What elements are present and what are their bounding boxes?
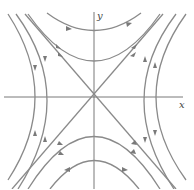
- arrow-icon: [33, 65, 37, 71]
- arrow-icon: [56, 44, 61, 49]
- arrow-icon: [143, 56, 147, 62]
- arrow-icon: [43, 136, 47, 142]
- arrow-icon: [153, 130, 157, 136]
- arrow-icon: [57, 141, 63, 145]
- phase-portrait-diagram: x y: [0, 0, 194, 189]
- arrow-icon: [33, 130, 37, 136]
- arrow-icon: [153, 62, 157, 68]
- trajectory-left-inner: [16, 14, 47, 189]
- x-axis-label: x: [179, 99, 185, 110]
- arrow-icon: [58, 52, 63, 57]
- arrow-icon: [43, 56, 47, 62]
- y-axis-label: y: [96, 10, 103, 21]
- arrow-icon: [126, 22, 132, 27]
- arrow-icon: [130, 52, 136, 57]
- phase-portrait-svg: x y: [0, 0, 194, 189]
- trajectory-right-inner: [144, 14, 176, 189]
- trajectory-bottom-outer: [50, 161, 139, 190]
- arrow-icon: [143, 137, 147, 143]
- arrow-icon: [122, 167, 128, 172]
